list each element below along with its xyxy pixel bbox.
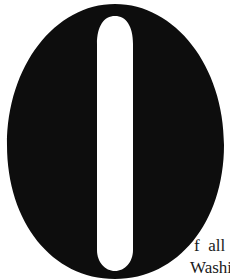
document-page: f all Washi <box>0 0 230 279</box>
body-text-line: f all <box>194 237 225 254</box>
body-text-line: Washi <box>190 259 230 276</box>
